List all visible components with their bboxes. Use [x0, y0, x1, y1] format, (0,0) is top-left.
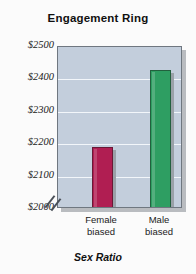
y-axis-tick-label: $2100: [2, 169, 54, 180]
chart-figure: Engagement Ring $2000$2100$2200$2300$240…: [0, 0, 196, 274]
axis-break-icon: [45, 192, 65, 214]
bar[interactable]: [150, 70, 171, 208]
y-axis-tick-label: $2400: [2, 71, 54, 82]
plot-area: [57, 46, 182, 208]
bar[interactable]: [92, 147, 113, 208]
y-axis-tick-labels: $2000$2100$2200$2300$2400$2500: [0, 0, 54, 274]
x-axis-tick-label-line1: Male: [149, 214, 170, 225]
x-axis-tick-label-line2: biased: [124, 226, 194, 238]
bar-highlight: [94, 149, 97, 207]
x-axis-title: Sex Ratio: [0, 251, 196, 263]
x-axis-tick-label-line1: Female: [85, 214, 117, 225]
bar-highlight: [152, 72, 155, 207]
y-axis-tick-label: $2300: [2, 104, 54, 115]
y-axis-tick-label: $2500: [2, 39, 54, 50]
x-axis-tick-label: Malebiased: [124, 214, 194, 237]
y-axis-tick-label: $2200: [2, 136, 54, 147]
